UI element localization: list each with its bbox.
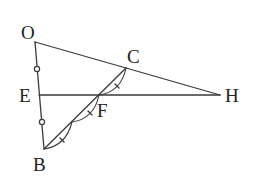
label-o: O	[21, 22, 35, 43]
label-f: F	[97, 100, 108, 121]
segment-oc	[35, 42, 126, 68]
segment-bc	[44, 68, 126, 149]
equal-mark-circle-1	[34, 66, 39, 71]
label-c: C	[127, 46, 140, 67]
segment-ch	[126, 68, 220, 95]
diagram-canvas: O C E H F B	[0, 0, 255, 181]
label-b: B	[33, 154, 46, 175]
label-e: E	[19, 85, 31, 106]
equal-mark-circle-2	[39, 119, 44, 124]
geometry-diagram: O C E H F B	[0, 0, 255, 181]
label-h: H	[225, 85, 239, 106]
